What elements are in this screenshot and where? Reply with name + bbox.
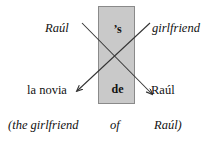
target-label-raul: Raúl — [151, 84, 175, 97]
target-label-la-novia: la novia — [27, 84, 67, 97]
gloss-close: Raúl) — [154, 118, 182, 133]
source-label-girlfriend: girlfriend — [152, 22, 200, 35]
gloss-of: of — [110, 118, 120, 133]
arrow-raul-to-raul — [82, 23, 152, 94]
source-label-raul: Raúl — [45, 22, 69, 35]
gloss-open: (the girlfriend — [8, 118, 78, 133]
free-translation-gloss: (the girlfriend of Raúl) — [0, 118, 214, 138]
genitive-crossing-diagram: ’s de Raúl girlfriend la novia Raúl (the… — [0, 0, 214, 145]
